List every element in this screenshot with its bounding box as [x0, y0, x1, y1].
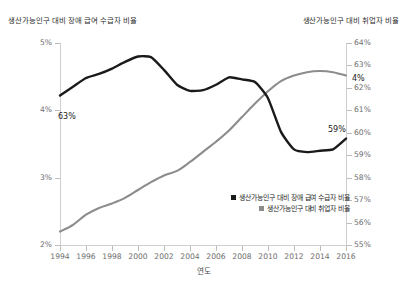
x-tick-label: 2006 [203, 252, 229, 261]
x-tick-label: 2012 [281, 252, 307, 261]
x-tick-label: 2000 [125, 252, 151, 261]
disability-benefit-line [60, 56, 346, 152]
x-tick-mark [138, 246, 139, 251]
right-tick-mark [347, 88, 352, 89]
right-tick-label: 64% [354, 38, 380, 47]
legend-item-disability: 생산가능인구 대비 장애 급여 수급자 비율 [190, 193, 350, 204]
x-tick-mark [294, 246, 295, 251]
right-tick-mark [347, 133, 352, 134]
data-point-label: 63% [58, 112, 76, 121]
left-tick-label: 3% [30, 173, 52, 182]
chart-container: 생산가능인구 대비 장애 급여 수급자 비율 생산가능인구 대비 취업자 비율 … [0, 0, 407, 285]
right-tick-label: 56% [354, 218, 380, 227]
right-tick-mark [347, 110, 352, 111]
chart-legend: 생산가능인구 대비 장애 급여 수급자 비율 생산가능인구 대비 취업자 비율 [190, 193, 350, 215]
x-axis-title: 연도 [0, 265, 407, 276]
right-tick-label: 62% [354, 83, 380, 92]
x-tick-mark [242, 246, 243, 251]
x-tick-label: 1996 [73, 252, 99, 261]
x-tick-label: 1998 [99, 252, 125, 261]
x-tick-mark [112, 246, 113, 251]
legend-label-disability: 생산가능인구 대비 장애 급여 수급자 비율 [239, 194, 350, 202]
right-tick-mark [347, 223, 352, 224]
x-tick-mark [268, 246, 269, 251]
right-tick-label: 57% [354, 195, 380, 204]
x-tick-label: 2004 [177, 252, 203, 261]
x-tick-label: 2002 [151, 252, 177, 261]
x-tick-mark [190, 246, 191, 251]
legend-swatch-employment [259, 206, 264, 211]
right-tick-mark [347, 245, 352, 246]
x-tick-label: 1994 [47, 252, 73, 261]
data-point-label: 59% [328, 125, 346, 134]
right-axis-title: 생산가능인구 대비 취업자 비율 [303, 14, 399, 25]
right-tick-label: 58% [354, 173, 380, 182]
right-tick-label: 63% [354, 60, 380, 69]
right-tick-label: 55% [354, 240, 380, 249]
x-tick-mark [164, 246, 165, 251]
x-tick-mark [60, 246, 61, 251]
right-tick-mark [347, 155, 352, 156]
left-axis-title: 생산가능인구 대비 장애 급여 수급자 비율 [8, 14, 137, 25]
x-tick-label: 2010 [255, 252, 281, 261]
x-tick-mark [216, 246, 217, 251]
x-tick-label: 2016 [333, 252, 359, 261]
x-axis-line [60, 245, 347, 246]
x-tick-label: 2008 [229, 252, 255, 261]
left-tick-label: 4% [30, 105, 52, 114]
right-tick-label: 61% [354, 105, 380, 114]
right-tick-label: 59% [354, 150, 380, 159]
legend-swatch-disability [231, 195, 236, 200]
right-tick-mark [347, 43, 352, 44]
right-tick-mark [347, 65, 352, 66]
x-tick-mark [86, 246, 87, 251]
x-tick-label: 2014 [307, 252, 333, 261]
data-point-label: 4% [352, 74, 365, 83]
right-tick-mark [347, 178, 352, 179]
x-tick-mark [346, 246, 347, 251]
left-tick-label: 2% [30, 240, 52, 249]
left-tick-label: 5% [30, 38, 52, 47]
right-tick-label: 60% [354, 128, 380, 137]
legend-label-employment: 생산가능인구 대비 취업자 비율 [267, 205, 350, 213]
x-tick-mark [320, 246, 321, 251]
legend-item-employment: 생산가능인구 대비 취업자 비율 [190, 204, 350, 215]
